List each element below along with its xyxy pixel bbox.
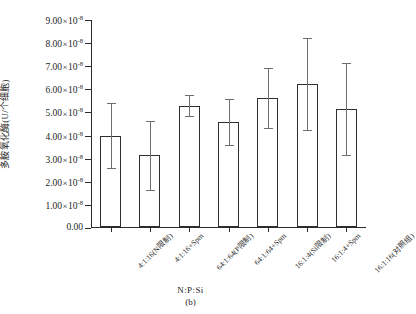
y-tick-label: 0.00 — [66, 223, 83, 233]
error-bar-cap-upper — [342, 63, 351, 64]
y-tick-label: 5.00×10-8 — [45, 106, 83, 120]
error-bar-stem — [307, 39, 308, 131]
error-bar-cap-upper — [264, 68, 273, 69]
error-bar-stem — [111, 104, 112, 169]
error-bar-cap-lower — [264, 128, 273, 129]
y-tick — [85, 182, 91, 183]
error-bar-stem — [346, 64, 347, 156]
error-bar-cap-upper — [107, 103, 116, 104]
error-bar-cap-lower — [342, 155, 351, 156]
x-tick — [229, 227, 230, 232]
error-bar-stem — [268, 69, 269, 129]
x-tick — [346, 227, 347, 232]
panel-caption: (b) — [0, 297, 381, 307]
error-bar-stem — [229, 100, 230, 146]
error-bar-cap-lower — [146, 190, 155, 191]
y-tick — [85, 228, 91, 229]
error-bar-cap-upper — [225, 99, 234, 100]
x-tick-label: 16:1:4+Spm — [330, 232, 362, 264]
y-tick — [85, 89, 91, 90]
y-tick — [85, 159, 91, 160]
y-tick-label: 8.00×10-8 — [45, 36, 83, 50]
y-tick-label: 7.00×10-8 — [45, 59, 83, 73]
x-tick — [150, 227, 151, 232]
error-bar-stem — [150, 122, 151, 191]
y-tick — [85, 43, 91, 44]
y-tick-label: 3.00×10-8 — [45, 152, 83, 166]
error-bar-cap-lower — [225, 145, 234, 146]
y-tick-label: 2.00×10-8 — [45, 175, 83, 189]
x-tick-label: 64:1:64+Spm — [253, 232, 288, 267]
y-axis-title: 多胺氧化酶(U/个细胞) — [0, 79, 11, 168]
x-tick-label: 4:1:16+Spm — [173, 232, 205, 264]
y-tick — [85, 136, 91, 137]
bar — [179, 106, 200, 227]
y-tick — [85, 20, 91, 21]
error-bar-cap-lower — [107, 168, 116, 169]
x-tick-label: 64:1:64(P限制) — [215, 232, 255, 272]
y-tick-label: 4.00×10-8 — [45, 129, 83, 143]
x-tick-label: 16:1:16(对照组) — [374, 232, 416, 275]
x-axis-title: N:P:Si — [0, 285, 381, 295]
y-tick-label: 9.00×10-8 — [45, 13, 83, 27]
error-bar-cap-lower — [303, 130, 312, 131]
x-tick-label: 4:1:16(N限制) — [136, 232, 174, 270]
error-bar-stem — [189, 96, 190, 117]
x-tick — [189, 227, 190, 232]
y-tick — [85, 205, 91, 206]
x-tick — [307, 227, 308, 232]
plot-area: 0.001.00×10-82.00×10-83.00×10-84.00×10-8… — [91, 20, 366, 228]
error-bar-cap-upper — [303, 38, 312, 39]
y-axis-line — [91, 20, 92, 228]
error-bar-cap-lower — [185, 116, 194, 117]
y-tick-label: 1.00×10-8 — [45, 198, 83, 212]
x-tick — [268, 227, 269, 232]
y-tick-label: 6.00×10-8 — [45, 83, 83, 97]
x-tick — [111, 227, 112, 232]
y-tick — [85, 112, 91, 113]
x-tick-label: 16:1:4(Si限制) — [293, 232, 332, 271]
error-bar-cap-upper — [146, 121, 155, 122]
y-tick — [85, 66, 91, 67]
error-bar-cap-upper — [185, 95, 194, 96]
